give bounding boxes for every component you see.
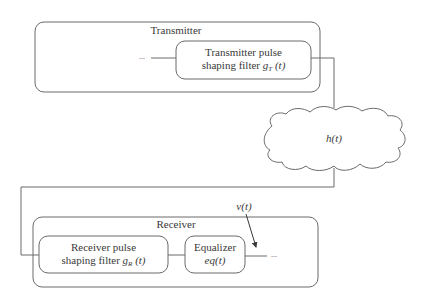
transmitter-filter-prefix: shaping filter — [202, 59, 263, 71]
equalizer-line2: eq(t) — [185, 254, 245, 267]
noise-label: v(t) — [229, 200, 259, 213]
transmitter-filter-arg: (t) — [272, 59, 285, 71]
transmitter-title: Transmitter — [146, 24, 206, 37]
receiver-filter-prefix: shaping filter — [61, 254, 122, 266]
receiver-filter-line1: Receiver pulse — [39, 241, 168, 254]
noise-arrow-icon — [246, 214, 256, 247]
equalizer-label: Equalizer eq(t) — [185, 241, 245, 267]
transmitter-filter-line2: shaping filter gT (t) — [176, 59, 311, 76]
receiver-title: Receiver — [146, 218, 206, 231]
equalizer-line1: Equalizer — [185, 241, 245, 254]
receiver-output-ellipsis: ... — [268, 248, 280, 261]
receiver-filter-label: Receiver pulse shaping filter gR (t) — [39, 241, 168, 271]
receiver-filter-line2: shaping filter gR (t) — [39, 254, 168, 271]
channel-label: h(t) — [314, 132, 354, 145]
tx-to-channel-wire — [311, 58, 334, 108]
receiver-filter-arg: (t) — [132, 254, 145, 266]
transmitter-filter-line1: Transmitter pulse — [176, 46, 311, 59]
transmitter-filter-label: Transmitter pulse shaping filter gT (t) — [176, 46, 311, 76]
transmitter-input-ellipsis: ... — [136, 50, 148, 63]
